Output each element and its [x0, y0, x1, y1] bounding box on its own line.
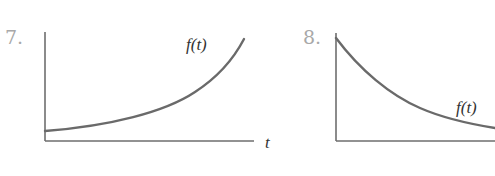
- curve-label: f(t): [186, 35, 207, 54]
- growth-curve: [45, 39, 244, 131]
- panel-8: 8. f(t): [303, 26, 495, 141]
- panel-7: 7. f(t) t: [5, 26, 271, 152]
- problem-number-8: 8.: [303, 26, 321, 48]
- problem-number-7: 7.: [5, 26, 23, 48]
- graphs-canvas: 7. f(t) t 8. f(t): [0, 0, 495, 176]
- x-axis-label: t: [265, 133, 271, 152]
- figure: 7. f(t) t 8. f(t): [0, 0, 495, 176]
- curve-label: f(t): [456, 98, 477, 117]
